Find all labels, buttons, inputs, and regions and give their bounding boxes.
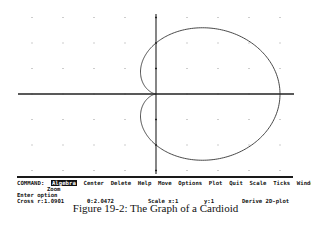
menu-item-quit[interactable]: Quit xyxy=(229,180,243,186)
menu-item-window[interactable]: Window xyxy=(297,180,311,186)
plot-area xyxy=(0,0,311,178)
menu-item-move[interactable]: Move xyxy=(158,180,172,186)
command-prompt: COMMAND: xyxy=(17,180,44,186)
command-menu: COMMAND: Algebra Center Delete Help Move… xyxy=(17,180,311,186)
menu-item-scale[interactable]: Scale xyxy=(249,180,266,186)
menu-item-delete[interactable]: Delete xyxy=(111,180,132,186)
figure-caption: Figure 19-2: The Graph of a Cardioid xyxy=(0,202,311,214)
separator-line xyxy=(17,176,293,178)
menu-item-center[interactable]: Center xyxy=(84,180,105,186)
menu-item-help[interactable]: Help xyxy=(138,180,152,186)
menu-item-plot[interactable]: Plot xyxy=(209,180,223,186)
menu-item-ticks[interactable]: Ticks xyxy=(273,180,290,186)
menu-item-options[interactable]: Options xyxy=(178,180,202,186)
